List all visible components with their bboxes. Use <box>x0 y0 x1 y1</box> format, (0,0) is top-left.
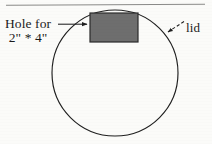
horizontal-rule <box>6 4 205 5</box>
hole-rectangle <box>90 13 138 42</box>
figure-canvas: Hole for 2" * 4" lid <box>0 0 212 144</box>
hole-label: Hole for 2" * 4" <box>5 17 51 45</box>
lid-label: lid <box>186 21 200 34</box>
hole-label-line-1: Hole for <box>5 17 51 31</box>
hole-label-line-2: 2" * 4" <box>5 31 51 45</box>
lid-leader-arrow <box>168 22 184 33</box>
